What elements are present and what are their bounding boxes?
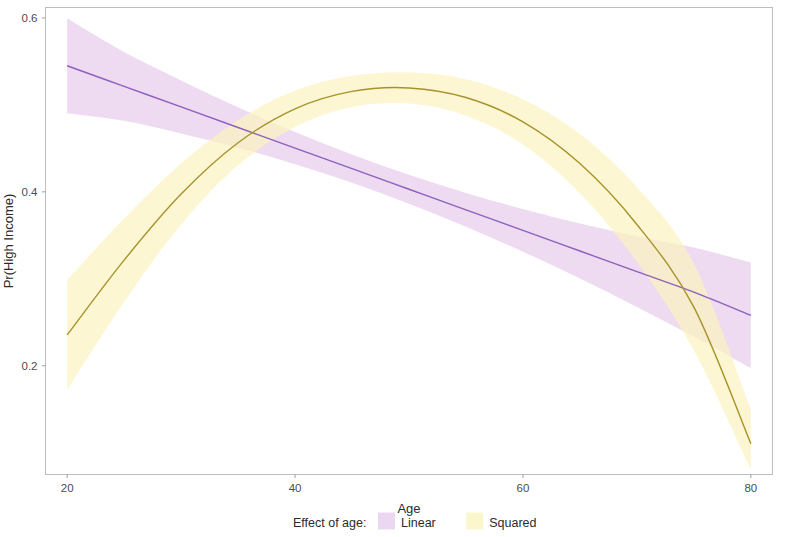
y-tick-label: 0.2: [22, 360, 38, 372]
legend-item-linear[interactable]: Linear: [378, 513, 436, 531]
y-axis-title: Pr(High Income): [1, 194, 16, 289]
x-tick-label: 80: [744, 482, 757, 494]
chart-figure: 204060800.20.40.6 Age Pr(High Income) Ef…: [0, 0, 786, 537]
legend-swatch: [378, 513, 395, 530]
x-tick-label: 40: [289, 482, 302, 494]
legend-title: Effect of age:: [293, 516, 366, 530]
legend-item-squared[interactable]: Squared: [466, 513, 536, 531]
y-tick-label: 0.6: [22, 12, 38, 24]
legend-label: Squared: [489, 516, 536, 530]
chart-legend: Effect of age: LinearSquared: [293, 513, 537, 531]
x-tick-label: 20: [61, 482, 74, 494]
chart-canvas: 204060800.20.40.6 Age Pr(High Income) Ef…: [0, 0, 786, 537]
x-axis-title: Age: [397, 501, 420, 516]
x-tick-label: 60: [517, 482, 530, 494]
legend-swatch: [466, 513, 483, 530]
y-tick-label: 0.4: [22, 186, 39, 198]
legend-label: Linear: [401, 516, 436, 530]
